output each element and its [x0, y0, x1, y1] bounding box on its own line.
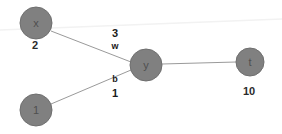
node-y-label: y — [143, 59, 149, 71]
edge-one-y — [51, 70, 131, 104]
node-x-label: x — [33, 17, 39, 29]
node-y[interactable]: y — [130, 49, 162, 81]
edge-x-y — [51, 31, 131, 62]
edge-one-y-name: b — [112, 74, 118, 84]
edge-x-y-name: w — [110, 41, 119, 51]
edge-x-y-weight: 3 — [112, 27, 118, 39]
node-t-label: t — [248, 56, 251, 68]
computation-graph: x 2 1 y t 10 3 w b 1 — [0, 0, 282, 134]
node-t-value: 10 — [243, 85, 255, 97]
node-x[interactable]: x — [20, 7, 52, 39]
diagram-canvas: x 2 1 y t 10 3 w b 1 — [0, 0, 282, 134]
edge-one-y-weight: 1 — [112, 87, 118, 99]
node-one[interactable]: 1 — [20, 94, 52, 126]
node-t[interactable]: t — [236, 48, 264, 76]
node-x-value: 2 — [32, 39, 38, 51]
node-one-label: 1 — [33, 104, 39, 116]
edge-y-t — [162, 62, 236, 64]
